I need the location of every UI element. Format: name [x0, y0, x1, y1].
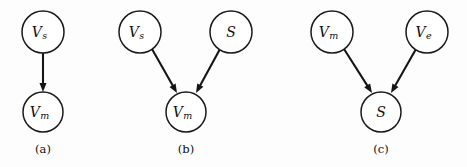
panel-caption: (c) — [373, 142, 388, 156]
node-c_vm: Vm — [311, 11, 353, 53]
arrowhead-icon — [170, 83, 177, 93]
node-label-subscript: s — [42, 30, 47, 41]
causal-graph-figure: VsVm(a)VsSVm(b)VmVeS(c) — [0, 0, 467, 167]
node-label-subscript: e — [426, 30, 432, 41]
node-c_s: S — [361, 92, 401, 132]
edge-shaft — [200, 49, 220, 86]
node-label-subscript: m — [329, 30, 338, 41]
panel-caption: (b) — [178, 142, 194, 156]
node-label: S — [226, 24, 236, 40]
panel-b: VsSVm(b) — [119, 11, 252, 156]
figure-canvas: VsVm(a)VsSVm(b)VmVeS(c) — [0, 0, 467, 167]
node-label-base: S — [376, 104, 386, 120]
arrowhead-icon — [391, 83, 398, 93]
node-a_vs: Vs — [22, 11, 64, 53]
node-label-subscript: m — [183, 110, 192, 121]
node-a_vm: Vm — [23, 92, 63, 132]
node-label: S — [376, 104, 386, 120]
node-label-subscript: s — [139, 30, 144, 41]
panel-a: VsVm(a) — [22, 11, 64, 156]
edge-shaft — [395, 49, 416, 86]
node-label-subscript: m — [40, 110, 49, 121]
node-b_vm: Vm — [166, 92, 206, 132]
edge-c_ve-to-c_s — [391, 49, 416, 93]
edge-b_s-to-b_vm — [196, 49, 220, 93]
node-c_ve: Ve — [406, 11, 448, 53]
edge-b_vs-to-b_vm — [152, 49, 177, 93]
node-b_s: S — [210, 11, 252, 53]
panel-caption: (a) — [35, 142, 51, 156]
edge-a_vs-to-a_vm — [40, 53, 47, 92]
panel-c: VmVeS(c) — [311, 11, 448, 156]
node-b_vs: Vs — [119, 11, 161, 53]
edge-c_vm-to-c_s — [344, 49, 372, 93]
arrowhead-icon — [196, 83, 203, 93]
edge-shaft — [344, 49, 368, 87]
arrowhead-icon — [40, 83, 47, 92]
arrowhead-icon — [364, 84, 372, 93]
node-label-base: S — [226, 24, 236, 40]
edge-shaft — [152, 49, 173, 86]
